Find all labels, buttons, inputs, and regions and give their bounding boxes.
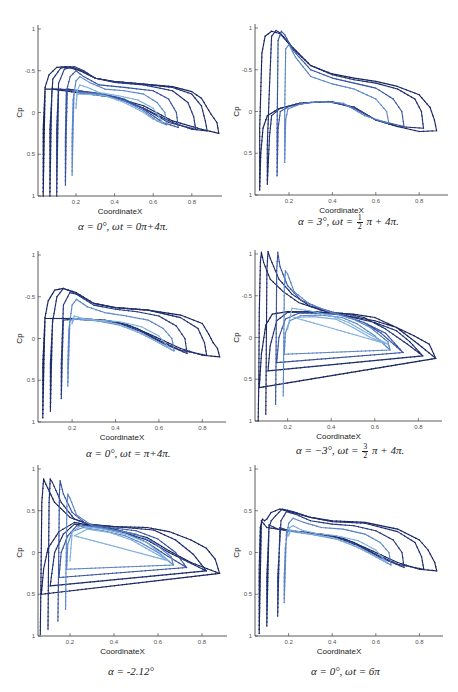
data-point-marker — [277, 132, 278, 133]
data-point-marker — [268, 33, 269, 34]
data-point-marker — [370, 354, 371, 355]
data-point-marker — [405, 331, 406, 332]
data-point-marker — [424, 100, 425, 101]
data-point-marker — [98, 581, 99, 582]
data-point-marker — [209, 551, 210, 552]
data-point-marker — [91, 88, 92, 89]
data-point-marker — [336, 538, 337, 539]
data-point-marker — [113, 529, 114, 530]
data-point-marker — [371, 554, 372, 555]
data-point-marker — [78, 317, 79, 318]
data-point-marker — [65, 318, 66, 319]
data-point-marker — [349, 525, 350, 526]
data-point-marker — [377, 360, 378, 361]
data-point-marker — [182, 567, 183, 568]
data-point-marker — [50, 581, 51, 582]
data-point-marker — [387, 327, 388, 328]
data-point-marker — [187, 102, 188, 103]
y-tick-label: 1 — [249, 192, 253, 198]
data-point-marker — [307, 379, 308, 380]
data-point-marker — [258, 374, 259, 375]
data-point-marker — [113, 313, 114, 314]
data-point-marker — [74, 535, 75, 536]
data-point-marker — [267, 166, 268, 167]
data-point-marker — [193, 126, 194, 127]
data-point-marker — [206, 570, 207, 571]
data-point-marker — [49, 195, 50, 196]
data-point-marker — [331, 315, 332, 316]
data-point-marker — [154, 333, 155, 334]
data-point-marker — [403, 363, 404, 364]
data-point-marker — [389, 331, 390, 332]
data-point-marker — [127, 532, 128, 533]
data-point-marker — [40, 573, 41, 574]
data-point-marker — [270, 258, 271, 259]
data-point-marker — [153, 90, 154, 91]
data-point-marker — [275, 30, 276, 31]
data-point-marker — [116, 99, 117, 100]
data-point-marker — [386, 347, 387, 348]
data-point-marker — [56, 195, 57, 196]
data-point-marker — [258, 370, 259, 371]
data-point-marker — [65, 141, 66, 142]
data-point-marker — [266, 354, 267, 355]
data-point-marker — [166, 124, 167, 125]
data-point-marker — [180, 96, 181, 97]
data-point-marker — [73, 120, 74, 121]
data-point-marker — [266, 621, 267, 622]
data-point-marker — [389, 96, 390, 97]
data-point-marker — [66, 129, 67, 130]
data-point-marker — [215, 356, 216, 357]
data-point-marker — [50, 478, 51, 479]
data-point-marker — [323, 535, 324, 536]
data-point-marker — [154, 575, 155, 576]
data-point-marker — [391, 339, 392, 340]
data-point-marker — [296, 360, 297, 361]
x-tick-label: 0.8 — [415, 198, 424, 204]
data-point-marker — [149, 570, 150, 571]
data-point-marker — [165, 319, 166, 320]
data-point-marker — [283, 358, 284, 359]
data-point-marker — [276, 299, 277, 300]
data-point-marker — [124, 324, 125, 325]
data-point-marker — [295, 57, 296, 58]
caption-alpha: α = -2.12° — [108, 665, 154, 677]
data-point-marker — [177, 534, 178, 535]
data-point-marker — [184, 316, 185, 317]
data-point-marker — [266, 527, 267, 528]
data-point-marker — [206, 548, 207, 549]
data-point-marker — [62, 584, 63, 585]
data-point-marker — [283, 324, 284, 325]
data-point-marker — [308, 102, 309, 103]
data-point-marker — [138, 538, 139, 539]
data-point-marker — [60, 292, 61, 293]
data-point-marker — [312, 524, 313, 525]
data-point-marker — [218, 352, 219, 353]
data-point-marker — [266, 613, 267, 614]
data-point-marker — [178, 573, 179, 574]
data-point-marker — [52, 293, 53, 294]
data-point-marker — [260, 98, 261, 99]
data-point-marker — [276, 303, 277, 304]
data-point-marker — [259, 278, 260, 279]
data-point-marker — [210, 114, 211, 115]
data-point-marker — [340, 76, 341, 77]
data-point-marker — [160, 565, 161, 566]
data-point-marker — [387, 323, 388, 324]
data-point-marker — [419, 539, 420, 540]
data-point-marker — [95, 90, 96, 91]
data-point-marker — [40, 634, 41, 635]
data-point-marker — [72, 154, 73, 155]
data-point-marker — [137, 328, 138, 329]
data-point-marker — [154, 114, 155, 115]
data-point-marker — [293, 315, 294, 316]
data-point-marker — [277, 598, 278, 599]
data-point-marker — [116, 531, 117, 532]
data-point-marker — [120, 526, 121, 527]
data-point-marker — [383, 344, 384, 345]
data-point-marker — [212, 555, 213, 556]
data-point-marker — [298, 302, 299, 303]
data-point-marker — [48, 552, 49, 553]
data-point-marker — [396, 330, 397, 331]
data-point-marker — [43, 166, 44, 167]
